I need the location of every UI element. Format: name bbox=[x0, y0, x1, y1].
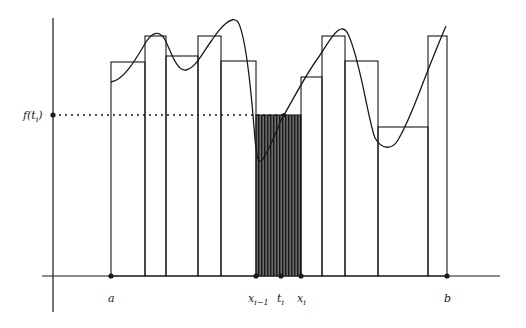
rectangle-11 bbox=[428, 36, 447, 276]
label-b: b bbox=[444, 292, 451, 305]
label-ti: ti bbox=[277, 292, 284, 307]
point-ti bbox=[278, 273, 283, 278]
rectangle-4 bbox=[198, 36, 221, 276]
rectangle-2 bbox=[145, 36, 166, 276]
label-a: a bbox=[108, 292, 115, 305]
riemann-sum-diagram: f(ti) a b xi−1 ti xi bbox=[0, 0, 526, 328]
rectangle-10 bbox=[378, 127, 428, 276]
rectangle-3 bbox=[166, 56, 198, 276]
highlighted-rectangle bbox=[256, 115, 301, 276]
f-ti-point bbox=[50, 112, 55, 117]
label-f-ti: f(ti) bbox=[22, 109, 43, 124]
point-b bbox=[444, 273, 449, 278]
rectangle-7 bbox=[301, 77, 322, 276]
rectangle-1 bbox=[111, 62, 145, 276]
rectangle-8 bbox=[322, 36, 345, 276]
point-a bbox=[108, 273, 113, 278]
curve-point-ti bbox=[282, 113, 286, 117]
label-x-prev: xi−1 bbox=[248, 292, 269, 307]
rectangle-9 bbox=[345, 61, 378, 276]
point-x-cur bbox=[298, 273, 303, 278]
point-x-prev bbox=[253, 273, 258, 278]
label-x-cur: xi bbox=[297, 292, 306, 307]
